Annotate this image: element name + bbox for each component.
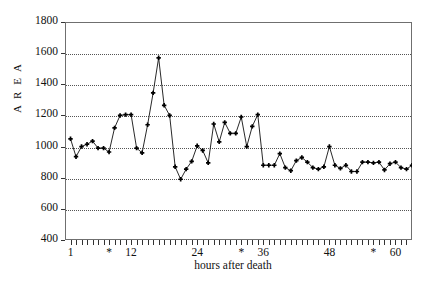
x-tick-mark (390, 240, 391, 245)
x-tick-mark (131, 240, 132, 245)
x-tick-mark (401, 240, 402, 245)
x-tick-mark (230, 240, 231, 245)
x-tick-label: 24 (191, 246, 203, 258)
x-tick-mark (203, 240, 204, 245)
x-axis-title: hours after death (0, 259, 436, 271)
x-tick-mark (280, 240, 281, 245)
x-tick-mark (291, 240, 292, 245)
y-tick-mark (61, 178, 65, 179)
x-tick-mark (98, 240, 99, 245)
x-tick-mark (318, 240, 319, 245)
x-tick-mark (208, 240, 209, 245)
x-tick-mark (384, 240, 385, 245)
y-tick-mark (61, 84, 65, 85)
x-tick-mark (395, 240, 396, 245)
x-tick-mark (126, 240, 127, 245)
x-tick-mark (247, 240, 248, 245)
x-tick-mark (175, 240, 176, 245)
gridline (66, 85, 411, 86)
x-tick-label: 60 (390, 246, 402, 258)
x-tick-mark (373, 240, 374, 245)
x-tick-mark (362, 240, 363, 245)
y-tick-label: 1400 (35, 76, 58, 88)
x-tick-mark (219, 240, 220, 245)
x-tick-mark (186, 240, 187, 245)
x-tick-mark (153, 240, 154, 245)
x-tick-mark (164, 240, 165, 245)
y-tick-label: 400 (41, 232, 58, 244)
chart-figure: A R E A 40060080010001200140016001800 1*… (0, 0, 436, 285)
x-tick-mark (406, 240, 407, 245)
x-tick-mark (137, 240, 138, 245)
x-tick-label: * (238, 246, 244, 258)
y-tick-label: 800 (41, 170, 58, 182)
x-tick-mark (329, 240, 330, 245)
x-tick-mark (335, 240, 336, 245)
x-tick-label: 36 (258, 246, 270, 258)
y-tick-mark (61, 209, 65, 210)
x-tick-mark (115, 240, 116, 245)
x-tick-mark (120, 240, 121, 245)
gridline (66, 210, 411, 211)
gridline (66, 148, 411, 149)
x-tick-mark (263, 240, 264, 245)
x-tick-mark (357, 240, 358, 245)
x-tick-mark (252, 240, 253, 245)
x-tick-label: 1 (68, 246, 74, 258)
x-tick-mark (307, 240, 308, 245)
x-tick-mark (109, 240, 110, 245)
y-tick-label: 1800 (35, 14, 58, 26)
x-tick-label: 12 (125, 246, 137, 258)
y-tick-label: 1200 (35, 107, 58, 119)
x-tick-mark (76, 240, 77, 245)
x-tick-mark (285, 240, 286, 245)
y-tick-label: 1600 (35, 45, 58, 57)
y-tick-label: 1000 (35, 139, 58, 151)
x-tick-label: * (371, 246, 377, 258)
x-tick-mark (159, 240, 160, 245)
x-tick-mark (346, 240, 347, 245)
x-tick-mark (225, 240, 226, 245)
x-tick-mark (197, 240, 198, 245)
x-axis-title-text: hours after death (194, 259, 271, 271)
x-tick-mark (324, 240, 325, 245)
plot-area (65, 22, 412, 240)
x-tick-label: 48 (324, 246, 336, 258)
x-tick-mark (241, 240, 242, 245)
x-tick-label: * (106, 246, 112, 258)
x-tick-mark (258, 240, 259, 245)
x-tick-mark (104, 240, 105, 245)
x-tick-mark (181, 240, 182, 245)
x-tick-mark (302, 240, 303, 245)
x-tick-mark (214, 240, 215, 245)
x-tick-mark (351, 240, 352, 245)
y-tick-mark (61, 147, 65, 148)
x-tick-mark (71, 240, 72, 245)
x-tick-mark (379, 240, 380, 245)
y-tick-label: 600 (41, 201, 58, 213)
x-tick-mark (313, 240, 314, 245)
x-tick-mark (87, 240, 88, 245)
y-tick-mark (61, 115, 65, 116)
y-tick-mark (61, 240, 65, 241)
x-tick-mark (93, 240, 94, 245)
x-tick-mark (142, 240, 143, 245)
x-tick-mark (170, 240, 171, 245)
x-tick-mark (148, 240, 149, 245)
y-tick-mark (61, 22, 65, 23)
gridline (66, 116, 411, 117)
gridline (66, 54, 411, 55)
x-tick-mark (274, 240, 275, 245)
y-tick-mark (61, 53, 65, 54)
gridline (66, 179, 411, 180)
x-tick-mark (269, 240, 270, 245)
x-tick-mark (296, 240, 297, 245)
x-tick-mark (236, 240, 237, 245)
x-tick-mark (192, 240, 193, 245)
x-tick-mark (340, 240, 341, 245)
x-tick-mark (368, 240, 369, 245)
x-tick-mark (82, 240, 83, 245)
y-axis-title: A R E A (11, 91, 23, 113)
